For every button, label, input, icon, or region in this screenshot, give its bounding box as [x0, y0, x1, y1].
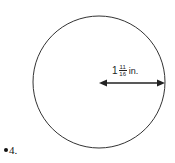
bullet-icon — [4, 148, 8, 152]
radius-label: 1 11 16 in. — [112, 64, 138, 77]
circle-diagram — [0, 0, 175, 163]
fraction-numerator: 11 — [119, 64, 127, 71]
radius-whole: 1 — [112, 65, 118, 76]
circle — [33, 16, 165, 148]
question-number-text: 4. — [9, 144, 17, 156]
radius-arrow — [99, 80, 165, 87]
fraction-denominator: 16 — [119, 71, 126, 77]
radius-fraction: 11 16 — [119, 64, 127, 77]
radius-unit: in. — [129, 66, 139, 76]
question-number: 4. — [4, 144, 17, 156]
